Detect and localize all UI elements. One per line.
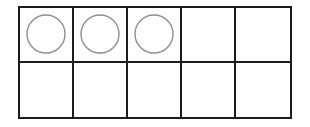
counter-circle-icon	[80, 14, 120, 54]
ten-frame-cell-r2c2[interactable]	[74, 63, 128, 118]
ten-frame-cell-r2c4[interactable]	[182, 63, 236, 118]
ten-frame-cell-r2c1[interactable]	[20, 63, 74, 118]
ten-frame-cell-r1c4[interactable]	[182, 8, 236, 63]
ten-frame-cell-r1c3[interactable]	[128, 8, 182, 63]
ten-frame-grid	[18, 6, 292, 119]
ten-frame-figure	[0, 0, 310, 127]
ten-frame-cell-r2c3[interactable]	[128, 63, 182, 118]
ten-frame-cell-r1c5[interactable]	[236, 8, 290, 63]
ten-frame-cell-r2c5[interactable]	[236, 63, 290, 118]
ten-frame-cell-r1c1[interactable]	[20, 8, 74, 63]
ten-frame-cell-r1c2[interactable]	[74, 8, 128, 63]
counter-circle-icon	[134, 14, 174, 54]
counter-circle-icon	[26, 14, 66, 54]
